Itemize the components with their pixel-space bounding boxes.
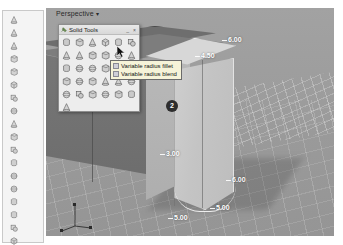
palette-empty-cell bbox=[112, 101, 125, 114]
sphere-solid-icon[interactable] bbox=[73, 36, 86, 49]
chevron-down-icon[interactable]: ▾ bbox=[96, 10, 99, 17]
dimension-tick bbox=[222, 40, 227, 41]
left-tool-palette[interactable] bbox=[2, 10, 44, 243]
palette-empty-cell bbox=[86, 101, 99, 114]
polyline-icon[interactable] bbox=[4, 39, 24, 52]
pin-icon bbox=[61, 27, 67, 33]
surface-plane-icon[interactable] bbox=[4, 143, 24, 156]
circle-icon[interactable] bbox=[4, 65, 24, 78]
mesh-tools-icon[interactable] bbox=[4, 234, 24, 245]
solid-sphere-icon[interactable] bbox=[4, 182, 24, 195]
ellipse-icon[interactable] bbox=[4, 91, 24, 104]
tube-solid-icon[interactable] bbox=[73, 49, 86, 62]
merge-faces-icon[interactable] bbox=[86, 88, 99, 101]
tooltip-item-label: Variable radius fillet bbox=[121, 62, 173, 70]
select-arrow-icon[interactable] bbox=[4, 13, 24, 26]
mouse-cursor-icon bbox=[117, 44, 126, 62]
variable-radius-blend-icon bbox=[113, 71, 119, 77]
dimension-label: 6.00 bbox=[228, 36, 242, 43]
unroll-icon[interactable] bbox=[125, 88, 138, 101]
ellipsoid-solid-icon[interactable] bbox=[86, 36, 99, 49]
variable-radius-fillet-icon bbox=[113, 63, 119, 69]
tooltip-item[interactable]: Variable radius fillet bbox=[112, 62, 180, 70]
arc-icon[interactable] bbox=[4, 78, 24, 91]
viewport-title[interactable]: Perspective▾ bbox=[56, 10, 99, 17]
boolean-intersection-icon[interactable] bbox=[86, 62, 99, 75]
torus-solid-icon[interactable] bbox=[86, 49, 99, 62]
dimension-label: 5.00 bbox=[216, 204, 230, 211]
rhino-app-window: Perspective▾ 2 6.004.504.003.006.005.005… bbox=[0, 0, 343, 245]
dimension-tick bbox=[168, 218, 173, 219]
palette-minimize-button[interactable]: _ bbox=[125, 27, 130, 33]
paraboloid-solid-icon[interactable] bbox=[99, 36, 112, 49]
array-polar-icon[interactable] bbox=[112, 88, 125, 101]
curve-tools-icon[interactable] bbox=[4, 130, 24, 143]
extract-surface-icon[interactable] bbox=[73, 75, 86, 88]
control-point-curve-icon[interactable] bbox=[4, 52, 24, 65]
truncated-cone-icon[interactable] bbox=[125, 36, 138, 49]
palette-empty-cell bbox=[73, 101, 86, 114]
dimension-label: 4.50 bbox=[201, 52, 215, 59]
boolean-union-icon[interactable] bbox=[60, 62, 73, 75]
cylinder-solid-icon[interactable] bbox=[60, 49, 73, 62]
palette-titlebar[interactable]: Solid Tools _ × bbox=[59, 25, 139, 35]
boolean-difference-icon[interactable] bbox=[73, 62, 86, 75]
dimension-tick bbox=[210, 208, 215, 209]
dimension-label: 3.00 bbox=[166, 150, 180, 157]
solid-point-icon[interactable] bbox=[73, 88, 86, 101]
tooltip-item-label: Variable radius blend bbox=[121, 70, 177, 78]
dimension-tick bbox=[195, 56, 200, 57]
object-number-badge: 2 bbox=[166, 100, 178, 112]
shell-solid-icon[interactable] bbox=[86, 75, 99, 88]
cap-planar-holes-icon[interactable] bbox=[60, 75, 73, 88]
dimension-tick bbox=[160, 154, 165, 155]
solid-edit-point-icon[interactable] bbox=[60, 101, 73, 114]
array-grid-icon[interactable] bbox=[99, 88, 112, 101]
select-point-icon[interactable] bbox=[4, 26, 24, 39]
palette-close-button[interactable]: × bbox=[132, 27, 137, 33]
solid-cylinder-icon[interactable] bbox=[4, 195, 24, 208]
palette-empty-cell bbox=[125, 101, 138, 114]
tooltip-item[interactable]: Variable radius blend bbox=[112, 70, 180, 78]
solid-cone-icon[interactable] bbox=[4, 208, 24, 221]
mesh-box-icon[interactable] bbox=[4, 221, 24, 234]
solid-box-icon[interactable] bbox=[4, 169, 24, 182]
dimension-label: 5.00 bbox=[174, 214, 188, 221]
dimension-label: 6.00 bbox=[232, 176, 246, 183]
palette-title-label: Solid Tools bbox=[69, 27, 98, 33]
box-solid-icon[interactable] bbox=[60, 36, 73, 49]
text-solid-icon[interactable] bbox=[60, 88, 73, 101]
axis-gizmo bbox=[60, 200, 96, 234]
viewport-title-label: Perspective bbox=[56, 10, 94, 17]
model-prism-edge-left bbox=[174, 66, 175, 206]
polygon-icon[interactable] bbox=[4, 117, 24, 130]
dimension-tick bbox=[226, 180, 231, 181]
palette-empty-cell bbox=[99, 101, 112, 114]
command-tooltip: Variable radius filletVariable radius bl… bbox=[110, 60, 182, 80]
surface-loft-icon[interactable] bbox=[4, 156, 24, 169]
rectangle-icon[interactable] bbox=[4, 104, 24, 117]
